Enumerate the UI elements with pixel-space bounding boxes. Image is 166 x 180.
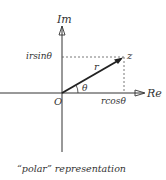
real-projection-label: rcosθ <box>101 97 126 106</box>
imaginary-axis-label: Im <box>57 14 72 25</box>
angle-label: θ <box>82 84 87 93</box>
real-axis-label: Re <box>147 88 162 99</box>
vector-r <box>62 58 123 94</box>
polar-representation-diagram: Im irsinθ z r θ O rcosθ Re “polar” repre… <box>0 0 166 180</box>
imaginary-projection-label: irsinθ <box>26 52 52 61</box>
imaginary-axis <box>59 26 65 152</box>
diagram-caption: “polar” representation <box>17 163 126 174</box>
origin-label: O <box>54 97 62 107</box>
angle-arc <box>76 85 78 93</box>
point-z-label: z <box>127 51 132 61</box>
modulus-label: r <box>94 62 99 72</box>
